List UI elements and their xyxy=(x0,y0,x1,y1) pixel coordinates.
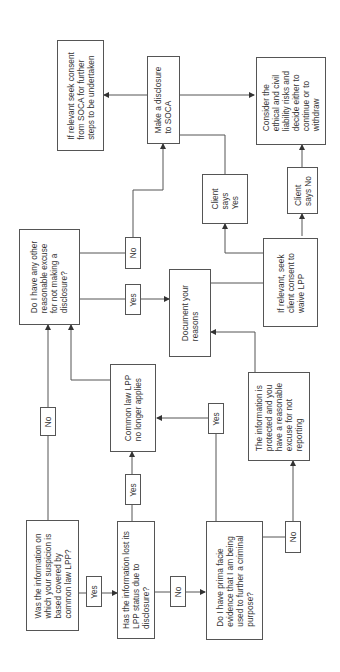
node-q4-other-excuse: Do I have any other reasonable excuse fo… xyxy=(19,229,80,325)
label-q4-no: No xyxy=(125,237,141,269)
label-q4-yes: Yes xyxy=(125,284,141,315)
label-q3-no: No xyxy=(285,521,301,553)
node-q3-criminal-purpose: Do I have prima facie evidence that I am… xyxy=(206,521,263,640)
node-document-reasons: Document your reasons xyxy=(169,269,211,357)
node-consider-risks: Consider the ethical and civil liability… xyxy=(256,57,326,145)
label-q3-yes: Yes xyxy=(208,403,224,434)
node-seek-soca-consent: If relevant seek consent from SOCA for f… xyxy=(57,40,104,151)
label-q2-no: No xyxy=(170,576,186,607)
node-client-says-no: Client says No xyxy=(287,167,318,214)
node-info-protected: The information is protected and you hav… xyxy=(248,372,310,461)
node-q1-lpp-coverage: Was the information on which your suspic… xyxy=(26,520,79,631)
node-seek-client-consent: If relevant, seek client consent to waiv… xyxy=(263,238,318,327)
node-client-says-yes: Client says Yes xyxy=(202,174,248,224)
label-q2-yes: Yes xyxy=(125,474,141,505)
node-lpp-no-longer-applies: Common law LPP no longer applies xyxy=(110,364,156,452)
label-q1-no: No xyxy=(40,407,56,436)
node-make-disclosure-soca: Make a disclosure to SOCA xyxy=(147,56,180,144)
label-q1-yes: Yes xyxy=(86,576,102,607)
node-q2-lpp-lost: Has the information lost its LPP status … xyxy=(117,521,155,639)
